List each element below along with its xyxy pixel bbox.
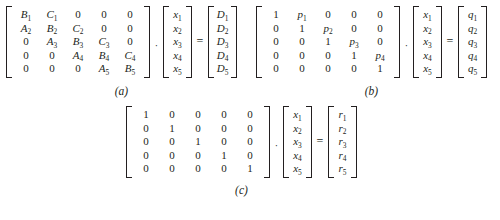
matrix-cell: C2 xyxy=(65,22,91,36)
matrix-row: 1p1000 xyxy=(263,8,393,22)
matrix-cell: 0 xyxy=(237,135,263,149)
equation-row-a: B1C1000A2B2C2000A3B3C3000A4B4C4000A5B5 ·… xyxy=(6,6,237,78)
matrix-cell: 0 xyxy=(211,122,237,136)
matrix-grid: 1p100001p200001p300001p400001 xyxy=(263,8,393,76)
vector-row: x3 xyxy=(170,35,185,49)
matrix-cell: A3 xyxy=(39,35,65,49)
identity-matrix: 1000001000001000001000001 xyxy=(126,106,270,178)
vector-cell: x2 xyxy=(420,22,435,36)
vector-cell: x3 xyxy=(290,135,305,149)
matrix-cell: 0 xyxy=(185,122,211,136)
vector-grid: D1D2D3D4D5 xyxy=(215,8,230,76)
vector-row: q2 xyxy=(465,22,480,36)
matrix-grid: 1000001000001000001000001 xyxy=(133,108,263,176)
vector-cell: r1 xyxy=(335,108,350,122)
matrix-cell: 0 xyxy=(289,49,315,63)
vector-row: q3 xyxy=(465,35,480,49)
matrix-cell: 0 xyxy=(65,8,91,22)
vector-cell: D3 xyxy=(215,35,230,49)
matrix-cell: 0 xyxy=(237,149,263,163)
matrix-cell: 0 xyxy=(341,22,367,36)
vector-cell: x5 xyxy=(170,62,185,76)
upper-bidiagonal-matrix: 1p100001p200001p300001p400001 xyxy=(256,6,400,78)
matrix-cell: 0 xyxy=(185,149,211,163)
vector-cell: r5 xyxy=(335,162,350,176)
matrix-cell: C3 xyxy=(91,35,117,49)
matrix-cell: p3 xyxy=(341,35,367,49)
equation-block-c: 1000001000001000001000001 · x1x2x3x4x5 =… xyxy=(126,106,357,196)
matrix-row: 00A4B4C4 xyxy=(13,49,143,63)
matrix-cell: 1 xyxy=(341,49,367,63)
x-vector: x1x2x3x4x5 xyxy=(163,6,192,78)
vector-row: x5 xyxy=(420,62,435,76)
equals-operator: = xyxy=(442,34,458,49)
matrix-cell: p1 xyxy=(289,8,315,22)
vector-grid: x1x2x3x4x5 xyxy=(420,8,435,76)
matrix-cell: B3 xyxy=(65,35,91,49)
vector-cell: x1 xyxy=(170,8,185,22)
matrix-cell: p2 xyxy=(315,22,341,36)
matrix-cell: p4 xyxy=(367,49,393,63)
vector-cell: x2 xyxy=(290,122,305,136)
matrix-cell: 0 xyxy=(133,122,159,136)
vector-row: D5 xyxy=(215,62,230,76)
matrix-cell: 0 xyxy=(263,22,289,36)
figure-caption-b: (b) xyxy=(365,85,378,97)
multiply-operator: · xyxy=(400,41,413,51)
matrix-cell: 0 xyxy=(39,62,65,76)
matrix-cell: 0 xyxy=(13,62,39,76)
matrix-cell: 0 xyxy=(117,22,143,36)
matrix-cell: 1 xyxy=(237,162,263,176)
matrix-row: 01p200 xyxy=(263,22,393,36)
vector-cell: r2 xyxy=(335,122,350,136)
matrix-cell: 0 xyxy=(315,8,341,22)
matrix-cell: 1 xyxy=(263,8,289,22)
vector-cell: x3 xyxy=(420,35,435,49)
matrix-cell: A2 xyxy=(13,22,39,36)
vector-row: q5 xyxy=(465,62,480,76)
vector-row: x5 xyxy=(170,62,185,76)
matrix-cell: 0 xyxy=(65,62,91,76)
matrix-cell: 0 xyxy=(185,162,211,176)
vector-row: x2 xyxy=(290,122,305,136)
matrix-row: 0001p4 xyxy=(263,49,393,63)
vector-grid: x1x2x3x4x5 xyxy=(290,108,305,176)
matrix-cell: 0 xyxy=(315,62,341,76)
matrix-cell: 0 xyxy=(133,135,159,149)
vector-row: x3 xyxy=(290,135,305,149)
matrix-cell: 1 xyxy=(211,149,237,163)
matrix-cell: 0 xyxy=(185,108,211,122)
vector-row: x2 xyxy=(420,22,435,36)
equation-block-a: B1C1000A2B2C2000A3B3C3000A4B4C4000A5B5 ·… xyxy=(6,6,237,97)
vector-row: r3 xyxy=(335,135,350,149)
matrix-row: 01000 xyxy=(133,122,263,136)
matrix-cell: 0 xyxy=(237,122,263,136)
matrix-cell: 0 xyxy=(237,108,263,122)
matrix-cell: 1 xyxy=(289,22,315,36)
vector-cell: x5 xyxy=(420,62,435,76)
figure-caption-c: (c) xyxy=(235,184,248,196)
vector-cell: x2 xyxy=(170,22,185,36)
matrix-cell: 0 xyxy=(211,162,237,176)
x-vector: x1x2x3x4x5 xyxy=(413,6,442,78)
matrix-cell: 0 xyxy=(289,62,315,76)
matrix-cell: 1 xyxy=(159,122,185,136)
vector-row: D4 xyxy=(215,49,230,63)
vector-row: x2 xyxy=(170,22,185,36)
vector-row: x3 xyxy=(420,35,435,49)
vector-cell: x1 xyxy=(290,108,305,122)
matrix-cell: 0 xyxy=(289,35,315,49)
vector-row: D1 xyxy=(215,8,230,22)
matrix-row: 0A3B3C30 xyxy=(13,35,143,49)
matrix-cell: 1 xyxy=(185,135,211,149)
matrix-cell: 0 xyxy=(263,35,289,49)
equals-operator: = xyxy=(192,34,208,49)
matrix-cell: B1 xyxy=(13,8,39,22)
vector-cell: r3 xyxy=(335,135,350,149)
multiply-operator: · xyxy=(270,141,283,151)
matrix-cell: 0 xyxy=(13,35,39,49)
matrix-cell: 0 xyxy=(341,8,367,22)
matrix-cell: 0 xyxy=(367,22,393,36)
matrix-row: 001p30 xyxy=(263,35,393,49)
matrix-cell: C4 xyxy=(117,49,143,63)
